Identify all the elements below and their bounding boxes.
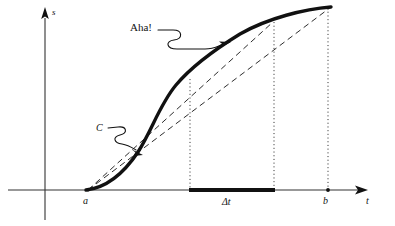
chords-group bbox=[88, 7, 331, 190]
delta-t-label: Δt bbox=[222, 197, 231, 207]
x-axis-label: t bbox=[366, 196, 369, 206]
tick-label-b: b bbox=[323, 196, 328, 206]
y-axis-arrowhead bbox=[41, 7, 49, 19]
axes-group bbox=[8, 7, 368, 220]
chord-label: C bbox=[96, 123, 103, 133]
chord-a-to-b bbox=[88, 7, 331, 190]
chord-leader-line bbox=[108, 127, 136, 150]
figure-root: s t a b Δt C Aha! bbox=[0, 0, 395, 226]
aha-label: Aha! bbox=[130, 22, 152, 33]
chord-a-to-interval-end bbox=[88, 22, 273, 190]
point-a-marker bbox=[86, 188, 89, 191]
y-axis-label: s bbox=[52, 8, 56, 17]
aha-leader-line bbox=[158, 30, 224, 49]
tick-label-a: a bbox=[83, 196, 88, 206]
point-b-marker bbox=[326, 188, 330, 192]
figure-canvas bbox=[0, 0, 395, 226]
position-curve bbox=[86, 7, 331, 190]
